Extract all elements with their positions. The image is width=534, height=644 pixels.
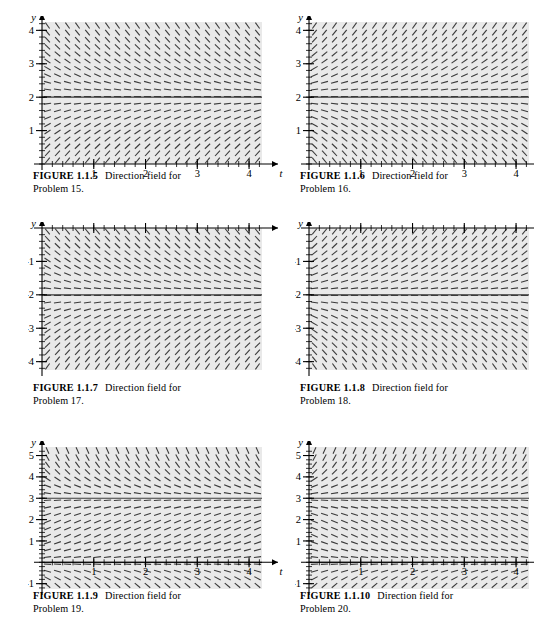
- y-tick-label: 4: [29, 25, 35, 36]
- figure-description-1-1-10: Direction field for: [377, 590, 453, 601]
- x-tick-label: 1: [358, 566, 363, 577]
- y-tick-label: -2: [28, 289, 34, 300]
- x-tick-label: 4: [246, 566, 252, 577]
- x-tick-label: 4: [513, 566, 519, 577]
- plot-background: [42, 228, 262, 370]
- figure-1-1-8: 1234-1-2-3-4ty FIGURE 1.1.8Direction fie…: [267, 200, 534, 425]
- x-tick-label: 2: [410, 566, 415, 577]
- figure-1-1-9: 1234-112345ty FIGURE 1.1.9Direction fiel…: [0, 425, 267, 644]
- y-tick-label: -1: [295, 578, 301, 589]
- caption-line2-1-1-7: Problem 17.: [33, 395, 263, 408]
- y-axis-label: y: [30, 16, 36, 23]
- plot-background: [309, 228, 529, 370]
- y-tick-label: -4: [28, 356, 35, 367]
- y-tick-label: -3: [28, 323, 34, 334]
- y-axis-arrow: [306, 441, 312, 445]
- plot-background: [309, 22, 529, 164]
- y-tick-label: 3: [29, 58, 34, 69]
- x-tick-label: 3: [462, 566, 467, 577]
- figure-label-1-1-10: FIGURE 1.1.10: [300, 590, 370, 601]
- y-tick-label: 1: [29, 536, 34, 547]
- plot-area-1-1-6: 12341234ty: [295, 16, 534, 188]
- y-tick-label: 1: [296, 536, 301, 547]
- y-axis-arrow: [306, 222, 312, 226]
- y-tick-label: -1: [295, 256, 301, 267]
- figure-1-1-6: 12341234ty FIGURE 1.1.6Direction field f…: [267, 0, 534, 200]
- figure-description-1-1-9: Direction field for: [105, 590, 181, 601]
- figure-description-1-1-7: Direction field for: [105, 382, 181, 393]
- figure-description-1-1-5: Direction field for: [105, 170, 181, 181]
- caption-line2-1-1-5: Problem 15.: [33, 183, 263, 196]
- y-tick-label: 4: [296, 471, 302, 482]
- plot-area-1-1-10: 1234-112345ty: [295, 441, 534, 613]
- plot-background: [42, 22, 262, 164]
- x-tick-label: 1: [358, 222, 363, 224]
- y-tick-label: -3: [295, 323, 301, 334]
- figure-description-1-1-6: Direction field for: [372, 170, 448, 181]
- figure-label-1-1-8: FIGURE 1.1.8: [300, 382, 365, 393]
- caption-1-1-7: FIGURE 1.1.7Direction field for Problem …: [33, 382, 263, 407]
- y-axis-label: y: [297, 16, 303, 23]
- figure-label-1-1-6: FIGURE 1.1.6: [300, 170, 365, 181]
- figure-label-1-1-7: FIGURE 1.1.7: [33, 382, 98, 393]
- slope-field-svg: 1234-112345ty: [295, 441, 534, 613]
- y-tick-label: -2: [295, 289, 301, 300]
- y-tick-label: -1: [28, 578, 34, 589]
- caption-1-1-6: FIGURE 1.1.6Direction field for Problem …: [300, 170, 530, 195]
- y-axis-arrow: [306, 16, 312, 20]
- plot-area-1-1-8: 1234-1-2-3-4ty: [295, 222, 534, 394]
- y-axis-arrow: [39, 222, 45, 226]
- plot-area-1-1-7: 1234-1-2-3-4ty: [28, 222, 288, 394]
- x-tick-label: 2: [143, 566, 148, 577]
- caption-1-1-10: FIGURE 1.1.10Direction field for Problem…: [300, 590, 530, 615]
- y-tick-label: 4: [296, 25, 302, 36]
- y-axis-label: y: [30, 441, 36, 448]
- y-axis-label: y: [30, 222, 36, 229]
- y-tick-label: 5: [29, 450, 34, 461]
- figure-1-1-5: 12341234ty FIGURE 1.1.5Direction field f…: [0, 0, 267, 200]
- y-tick-label: 5: [296, 450, 301, 461]
- figure-label-1-1-9: FIGURE 1.1.9: [33, 590, 98, 601]
- y-tick-label: 1: [296, 125, 301, 136]
- slope-field-svg: 1234-112345ty: [28, 441, 288, 613]
- x-tick-label: 2: [410, 222, 415, 224]
- caption-line2-1-1-8: Problem 18.: [300, 395, 530, 408]
- y-axis-arrow: [39, 16, 45, 20]
- y-axis-label: y: [297, 441, 303, 448]
- caption-1-1-5: FIGURE 1.1.5Direction field for Problem …: [33, 170, 263, 195]
- figure-1-1-7: 1234-1-2-3-4ty FIGURE 1.1.7Direction fie…: [0, 200, 267, 425]
- y-axis-arrow: [39, 441, 45, 445]
- y-tick-label: 3: [29, 493, 34, 504]
- caption-line2-1-1-9: Problem 19.: [33, 603, 263, 616]
- figure-description-1-1-8: Direction field for: [372, 382, 448, 393]
- x-tick-label: 1: [91, 566, 96, 577]
- y-tick-label: 2: [296, 92, 301, 103]
- plot-area-1-1-5: 12341234ty: [28, 16, 288, 188]
- y-tick-label: 1: [29, 125, 34, 136]
- caption-1-1-9: FIGURE 1.1.9Direction field for Problem …: [33, 590, 263, 615]
- figure-label-1-1-5: FIGURE 1.1.5: [33, 170, 98, 181]
- y-tick-label: 3: [296, 58, 301, 69]
- y-axis-label: y: [297, 222, 303, 229]
- y-tick-label: 2: [29, 92, 34, 103]
- slope-field-svg: 12341234ty: [28, 16, 288, 188]
- figure-grid: 12341234ty FIGURE 1.1.5Direction field f…: [0, 0, 534, 644]
- textbook-figure-page: 12341234ty FIGURE 1.1.5Direction field f…: [0, 0, 534, 644]
- slope-field-svg: 12341234ty: [295, 16, 534, 188]
- plot-background: [309, 447, 529, 589]
- figure-1-1-10: 1234-112345ty FIGURE 1.1.10Direction fie…: [267, 425, 534, 644]
- y-tick-label: -1: [28, 256, 34, 267]
- y-tick-label: 3: [296, 493, 301, 504]
- caption-line2-1-1-10: Problem 20.: [300, 603, 530, 616]
- x-tick-label: 4: [246, 222, 252, 224]
- caption-line2-1-1-6: Problem 16.: [300, 183, 530, 196]
- y-tick-label: 4: [29, 471, 35, 482]
- x-tick-label: 3: [195, 222, 200, 224]
- plot-area-1-1-9: 1234-112345ty: [28, 441, 288, 613]
- x-tick-label: 4: [513, 222, 519, 224]
- slope-field-svg: 1234-1-2-3-4ty: [28, 222, 288, 394]
- plot-background: [42, 447, 262, 589]
- slope-field-svg: 1234-1-2-3-4ty: [295, 222, 534, 394]
- x-tick-label: 3: [462, 222, 467, 224]
- caption-1-1-8: FIGURE 1.1.8Direction field for Problem …: [300, 382, 530, 407]
